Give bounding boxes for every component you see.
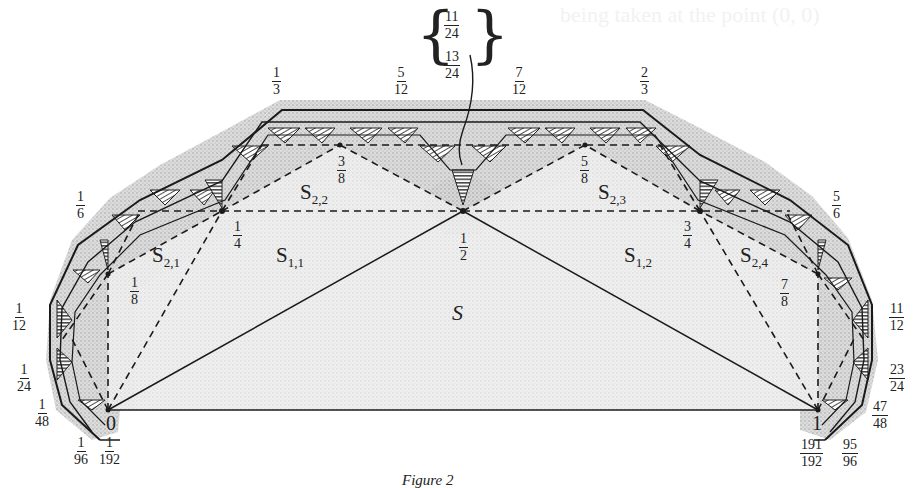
label-1-2: 1 2 [459, 232, 468, 263]
label-11-24: 11 24 [444, 10, 459, 41]
region-label-s21: S2,1 [152, 243, 180, 271]
label-1-8: 1 8 [130, 276, 139, 307]
label-1-4: 1 4 [233, 220, 242, 251]
label-3-8: 3 8 [337, 155, 346, 186]
region-label-s12: S1,2 [624, 243, 652, 271]
label-13-24: 13 24 [444, 50, 460, 81]
label-95-96: 95 96 [842, 438, 858, 469]
label-1-48: 1 48 [35, 398, 49, 429]
label-47-48: 47 48 [872, 400, 888, 431]
right-brace: } [470, 4, 509, 66]
label-1-3: 1 3 [272, 66, 281, 97]
label-11-12: 11 12 [889, 302, 904, 333]
label-1-192: 1 192 [99, 436, 120, 467]
label-7-8: 7 8 [780, 278, 789, 309]
label-2-3: 2 3 [640, 66, 649, 97]
label-1-96: 1 96 [74, 436, 88, 467]
label-23-24: 23 24 [889, 363, 905, 394]
label-5-6: 5 6 [832, 190, 841, 221]
label-1-6: 1 6 [76, 190, 85, 221]
region-label-s: S [452, 300, 463, 326]
label-point-1: 1 [812, 412, 822, 435]
label-1-12: 1 12 [12, 302, 26, 333]
label-3-4: 3 4 [683, 220, 692, 251]
region-label-s22: S2,2 [300, 180, 328, 208]
label-5-8: 5 8 [580, 155, 589, 186]
label-7-12: 7 12 [512, 66, 526, 97]
region-label-s23: S2,3 [598, 180, 626, 208]
label-1-24: 1 24 [17, 363, 31, 394]
label-point-0: 0 [106, 412, 116, 435]
region-label-s11: S1,1 [276, 243, 304, 271]
figure-caption: Figure 2 [402, 472, 454, 488]
label-191-192: 191 192 [800, 438, 823, 469]
region-label-s24: S2,4 [740, 243, 768, 271]
label-5-12: 5 12 [394, 66, 408, 97]
